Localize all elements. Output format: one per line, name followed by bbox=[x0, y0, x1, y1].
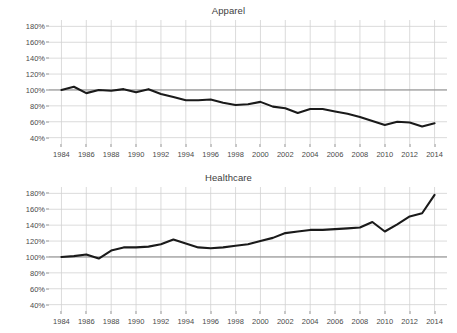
x-tick-label: 1994 bbox=[177, 317, 194, 326]
plot-area-apparel: 40%60%80%100%120%140%160%180%19841986198… bbox=[49, 20, 447, 144]
x-tick-mark bbox=[235, 311, 236, 314]
x-tick-label: 2000 bbox=[252, 150, 269, 159]
x-tick-mark bbox=[359, 144, 360, 147]
x-tick-mark bbox=[185, 311, 186, 314]
x-tick-label: 2006 bbox=[327, 150, 344, 159]
x-tick-mark bbox=[210, 144, 211, 147]
x-tick-mark bbox=[335, 144, 336, 147]
plot-area-healthcare: 40%60%80%100%120%140%160%180%19841986198… bbox=[49, 187, 447, 311]
y-tick-label: 40% bbox=[30, 300, 45, 309]
y-tick-label: 140% bbox=[26, 221, 45, 230]
x-tick-mark bbox=[61, 311, 62, 314]
y-tick-label: 60% bbox=[30, 117, 45, 126]
x-tick-label: 2002 bbox=[277, 317, 294, 326]
y-tick-label: 80% bbox=[30, 268, 45, 277]
y-tick-label: 140% bbox=[26, 54, 45, 63]
chart-svg-apparel bbox=[49, 20, 447, 144]
x-tick-label: 1998 bbox=[227, 317, 244, 326]
x-tick-label: 2004 bbox=[302, 317, 319, 326]
y-tick-mark bbox=[46, 26, 49, 27]
y-tick-mark bbox=[46, 137, 49, 138]
x-tick-mark bbox=[210, 311, 211, 314]
x-tick-mark bbox=[111, 311, 112, 314]
chart-title-apparel: Apparel bbox=[0, 5, 457, 16]
data-series-line bbox=[61, 87, 434, 127]
y-tick-mark bbox=[46, 121, 49, 122]
x-tick-mark bbox=[434, 144, 435, 147]
x-tick-mark bbox=[260, 144, 261, 147]
x-tick-mark bbox=[136, 311, 137, 314]
y-tick-mark bbox=[46, 209, 49, 210]
x-tick-mark bbox=[86, 144, 87, 147]
x-tick-mark bbox=[310, 311, 311, 314]
x-tick-label: 1984 bbox=[53, 317, 70, 326]
x-tick-mark bbox=[136, 144, 137, 147]
chart-title-healthcare: Healthcare bbox=[0, 172, 457, 183]
x-tick-label: 1992 bbox=[153, 150, 170, 159]
x-tick-mark bbox=[86, 311, 87, 314]
x-tick-label: 1992 bbox=[153, 317, 170, 326]
x-tick-label: 2000 bbox=[252, 317, 269, 326]
chart-panel-healthcare: Healthcare 1984 = 100% 40%60%80%100%120%… bbox=[0, 167, 457, 333]
y-tick-mark bbox=[46, 288, 49, 289]
y-tick-label: 80% bbox=[30, 101, 45, 110]
x-tick-label: 2014 bbox=[426, 150, 443, 159]
x-tick-label: 1984 bbox=[53, 150, 70, 159]
y-tick-label: 60% bbox=[30, 284, 45, 293]
x-tick-label: 1994 bbox=[177, 150, 194, 159]
y-tick-mark bbox=[46, 42, 49, 43]
x-tick-mark bbox=[434, 311, 435, 314]
x-tick-mark bbox=[310, 144, 311, 147]
y-tick-mark bbox=[46, 304, 49, 305]
x-tick-mark bbox=[359, 311, 360, 314]
x-tick-label: 2006 bbox=[327, 317, 344, 326]
chart-panel-apparel: Apparel 1984 = 100% 40%60%80%100%120%140… bbox=[0, 0, 457, 166]
x-tick-label: 1996 bbox=[202, 150, 219, 159]
y-tick-label: 120% bbox=[26, 70, 45, 79]
x-tick-mark bbox=[409, 144, 410, 147]
x-tick-mark bbox=[384, 144, 385, 147]
y-tick-mark bbox=[46, 256, 49, 257]
x-tick-mark bbox=[160, 144, 161, 147]
x-tick-label: 2008 bbox=[352, 150, 369, 159]
x-tick-label: 2012 bbox=[401, 150, 418, 159]
x-tick-label: 1996 bbox=[202, 317, 219, 326]
y-tick-mark bbox=[46, 193, 49, 194]
x-tick-mark bbox=[160, 311, 161, 314]
figure-root: Apparel 1984 = 100% 40%60%80%100%120%140… bbox=[0, 0, 457, 333]
x-tick-mark bbox=[260, 311, 261, 314]
y-tick-label: 120% bbox=[26, 237, 45, 246]
y-tick-mark bbox=[46, 89, 49, 90]
x-tick-mark bbox=[409, 311, 410, 314]
x-tick-label: 1986 bbox=[78, 317, 95, 326]
y-tick-label: 160% bbox=[26, 38, 45, 47]
y-tick-mark bbox=[46, 74, 49, 75]
x-tick-label: 1986 bbox=[78, 150, 95, 159]
y-tick-mark bbox=[46, 105, 49, 106]
x-tick-mark bbox=[111, 144, 112, 147]
chart-svg-healthcare bbox=[49, 187, 447, 311]
x-tick-label: 2004 bbox=[302, 150, 319, 159]
x-tick-mark bbox=[335, 311, 336, 314]
y-tick-label: 40% bbox=[30, 133, 45, 142]
y-tick-mark bbox=[46, 272, 49, 273]
y-tick-label: 100% bbox=[26, 85, 45, 94]
x-tick-mark bbox=[384, 311, 385, 314]
x-tick-mark bbox=[235, 144, 236, 147]
x-tick-label: 1988 bbox=[103, 317, 120, 326]
y-tick-mark bbox=[46, 58, 49, 59]
clipped-bottom-row bbox=[0, 329, 457, 333]
y-tick-label: 180% bbox=[26, 22, 45, 31]
y-tick-mark bbox=[46, 225, 49, 226]
x-tick-mark bbox=[185, 144, 186, 147]
x-tick-label: 1988 bbox=[103, 150, 120, 159]
x-tick-label: 1990 bbox=[128, 317, 145, 326]
x-tick-label: 2002 bbox=[277, 150, 294, 159]
x-tick-label: 2010 bbox=[376, 317, 393, 326]
data-series-line bbox=[61, 195, 434, 259]
x-tick-label: 2014 bbox=[426, 317, 443, 326]
clipped-bottom-text bbox=[10, 329, 18, 333]
y-tick-label: 160% bbox=[26, 205, 45, 214]
y-tick-label: 100% bbox=[26, 252, 45, 261]
x-tick-mark bbox=[61, 144, 62, 147]
